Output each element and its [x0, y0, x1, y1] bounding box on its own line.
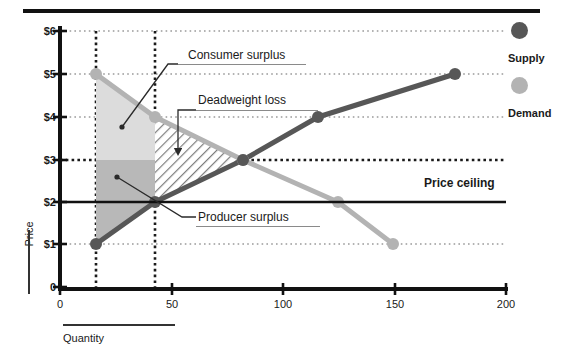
producer-surplus-underline [196, 226, 320, 227]
producer-surplus-label: Producer surplus [198, 210, 289, 224]
deadweight-loss-underline [196, 110, 318, 111]
legend-swatch-demand [511, 77, 528, 94]
consumer-surplus-label: Consumer surplus [188, 48, 285, 62]
price-ceiling-label: Price ceiling [424, 176, 495, 190]
consumer-surplus-anchor-dot [119, 124, 124, 129]
producer-surplus-anchor-dot [114, 174, 119, 179]
legend-label-supply: Supply [508, 52, 545, 64]
legend-swatch-supply [511, 22, 528, 39]
deadweight-loss-label: Deadweight loss [198, 93, 286, 107]
deadweight-loss-region [155, 117, 243, 202]
consumer-surplus-region [96, 74, 155, 160]
economics-price-ceiling-chart: $6 $5 $4 $3 $2 $1 0 0 50 100 150 200 Pri… [0, 0, 563, 352]
legend-label-demand: Demand [508, 107, 551, 119]
consumer-surplus-underline [178, 64, 306, 65]
